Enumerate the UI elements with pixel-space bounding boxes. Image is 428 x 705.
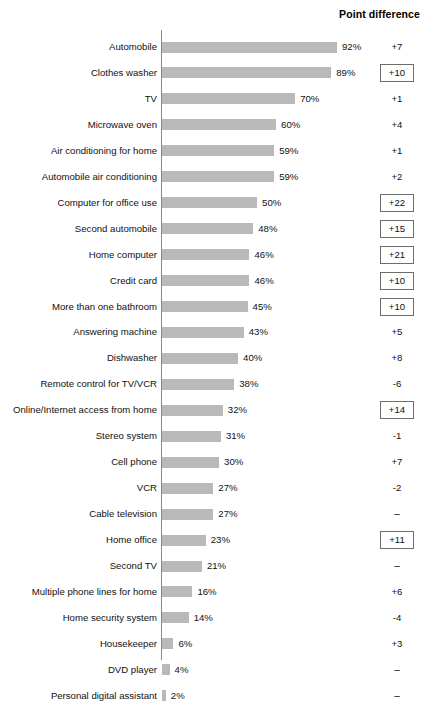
category-label: Multiple phone lines for home (0, 583, 157, 601)
bar-value-label: 30% (224, 453, 243, 471)
bar-value-label: 14% (194, 609, 213, 627)
chart-row: Automobile92%+7 (0, 38, 428, 56)
bar (162, 586, 192, 597)
chart-row: Credit card46%+10 (0, 272, 428, 290)
bar-value-label: 59% (279, 142, 298, 160)
point-difference-value: +7 (374, 38, 420, 56)
bar-value-label: 27% (218, 505, 237, 523)
bar-value-label: 92% (342, 38, 361, 56)
point-difference-value: +6 (374, 583, 420, 601)
point-difference-value: -4 (374, 609, 420, 627)
category-label: Credit card (0, 272, 157, 290)
bar (162, 431, 221, 442)
chart-row: Home security system14%-4 (0, 609, 428, 627)
category-label: TV (0, 90, 157, 108)
chart-row: Online/Internet access from home32%+14 (0, 401, 428, 419)
bar-value-label: 45% (253, 298, 272, 316)
bar (162, 145, 274, 156)
bar (162, 638, 173, 649)
category-label: Clothes washer (0, 64, 157, 82)
bar (162, 379, 234, 390)
category-label: More than one bathroom (0, 298, 157, 316)
bar-value-label: 16% (197, 583, 216, 601)
category-label: Cell phone (0, 453, 157, 471)
bar (162, 535, 206, 546)
category-label: Microwave oven (0, 116, 157, 134)
bar-value-label: 46% (254, 246, 273, 264)
bar-value-label: 59% (279, 168, 298, 186)
bar (162, 67, 331, 78)
bar (162, 223, 253, 234)
point-difference-value-highlighted: +10 (380, 64, 414, 82)
chart-row: Cable television27%– (0, 505, 428, 523)
category-label: Automobile (0, 38, 157, 56)
category-label: Home computer (0, 246, 157, 264)
chart-row: Remote control for TV/VCR38%-6 (0, 375, 428, 393)
bar (162, 327, 244, 338)
category-label: Answering machine (0, 323, 157, 341)
category-label: Home office (0, 531, 157, 549)
point-difference-value-highlighted: +11 (380, 531, 414, 549)
bar-value-label: 48% (258, 220, 277, 238)
category-label: Stereo system (0, 427, 157, 445)
chart-row: Computer for office use50%+22 (0, 194, 428, 212)
bar-value-label: 50% (262, 194, 281, 212)
bar-value-label: 23% (211, 531, 230, 549)
bar-value-label: 70% (300, 90, 319, 108)
bar-value-label: 40% (243, 349, 262, 367)
bar (162, 664, 170, 675)
bar-value-label: 60% (281, 116, 300, 134)
category-label: Personal digital assistant (0, 687, 157, 705)
point-difference-value: – (374, 505, 420, 523)
chart-row: Personal digital assistant2%– (0, 687, 428, 705)
point-difference-value-highlighted: +21 (380, 246, 414, 264)
category-label: DVD player (0, 661, 157, 679)
point-difference-value: +1 (374, 142, 420, 160)
chart-row: Dishwasher40%+8 (0, 349, 428, 367)
category-label: Air conditioning for home (0, 142, 157, 160)
category-label: Automobile air conditioning (0, 168, 157, 186)
point-difference-value: +4 (374, 116, 420, 134)
chart-row: Clothes washer89%+10 (0, 64, 428, 82)
bar (162, 457, 219, 468)
bar (162, 171, 274, 182)
bar-value-label: 46% (254, 272, 273, 290)
point-difference-value: +3 (374, 635, 420, 653)
bar (162, 275, 249, 286)
bar (162, 690, 166, 701)
point-difference-value: -2 (374, 479, 420, 497)
point-difference-value: – (374, 661, 420, 679)
point-difference-value: +5 (374, 323, 420, 341)
bar (162, 197, 257, 208)
bar (162, 612, 189, 623)
category-label: VCR (0, 479, 157, 497)
chart-row: Microwave oven60%+4 (0, 116, 428, 134)
bar (162, 249, 249, 260)
bar (162, 42, 337, 53)
chart-row: Automobile air conditioning59%+2 (0, 168, 428, 186)
point-difference-value-highlighted: +22 (380, 194, 414, 212)
category-label: Second automobile (0, 220, 157, 238)
bar (162, 353, 238, 364)
bar-value-label: 4% (175, 661, 189, 679)
bar (162, 561, 202, 572)
bar (162, 93, 295, 104)
bar (162, 301, 248, 312)
bar-value-label: 43% (249, 323, 268, 341)
bar-value-label: 2% (171, 687, 185, 705)
chart-row: Second automobile48%+15 (0, 220, 428, 238)
chart-row: Answering machine43%+5 (0, 323, 428, 341)
category-label: Remote control for TV/VCR (0, 375, 157, 393)
chart-row: Cell phone30%+7 (0, 453, 428, 471)
point-difference-value: -1 (374, 427, 420, 445)
chart-row: Stereo system31%-1 (0, 427, 428, 445)
point-difference-value: +7 (374, 453, 420, 471)
point-difference-value: +1 (374, 90, 420, 108)
category-label: Cable television (0, 505, 157, 523)
bar (162, 509, 213, 520)
chart-row: Multiple phone lines for home16%+6 (0, 583, 428, 601)
bar-value-label: 21% (207, 557, 226, 575)
chart-row: Home office23%+11 (0, 531, 428, 549)
